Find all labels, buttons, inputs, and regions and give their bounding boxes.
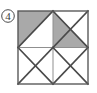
figure-label: 4 [2,10,15,23]
geometric-figure: 4 [0,0,97,93]
figure-label-text: 4 [5,10,11,22]
figure-container: 4 [0,0,97,93]
